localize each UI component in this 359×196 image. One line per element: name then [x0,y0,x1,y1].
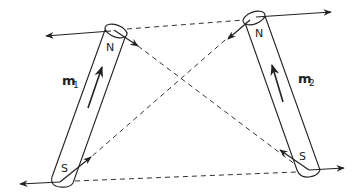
arrow-n2-right [256,12,331,17]
dashed-bottom-s1-s2 [75,172,297,181]
arrow-n1-left [46,31,111,36]
diagram-svg: N S N S m 1 m 2 [0,0,359,196]
dashed-top-n1-n2 [127,20,244,29]
m1-label-subscript: 1 [73,80,79,90]
moment-arrows [88,65,283,108]
m2-north-label: N [255,27,263,40]
magnet-interaction-diagram: N S N S m 1 m 2 [0,0,359,196]
m1-label: m 1 [62,73,79,90]
m2-south-label: S [299,150,306,163]
m1-south-label: S [61,162,68,175]
m1-north-label: N [106,41,114,54]
arrow-n2-toward-s1 [228,20,250,39]
m2-label: m 2 [298,71,315,88]
m2-label-subscript: 2 [309,78,315,88]
